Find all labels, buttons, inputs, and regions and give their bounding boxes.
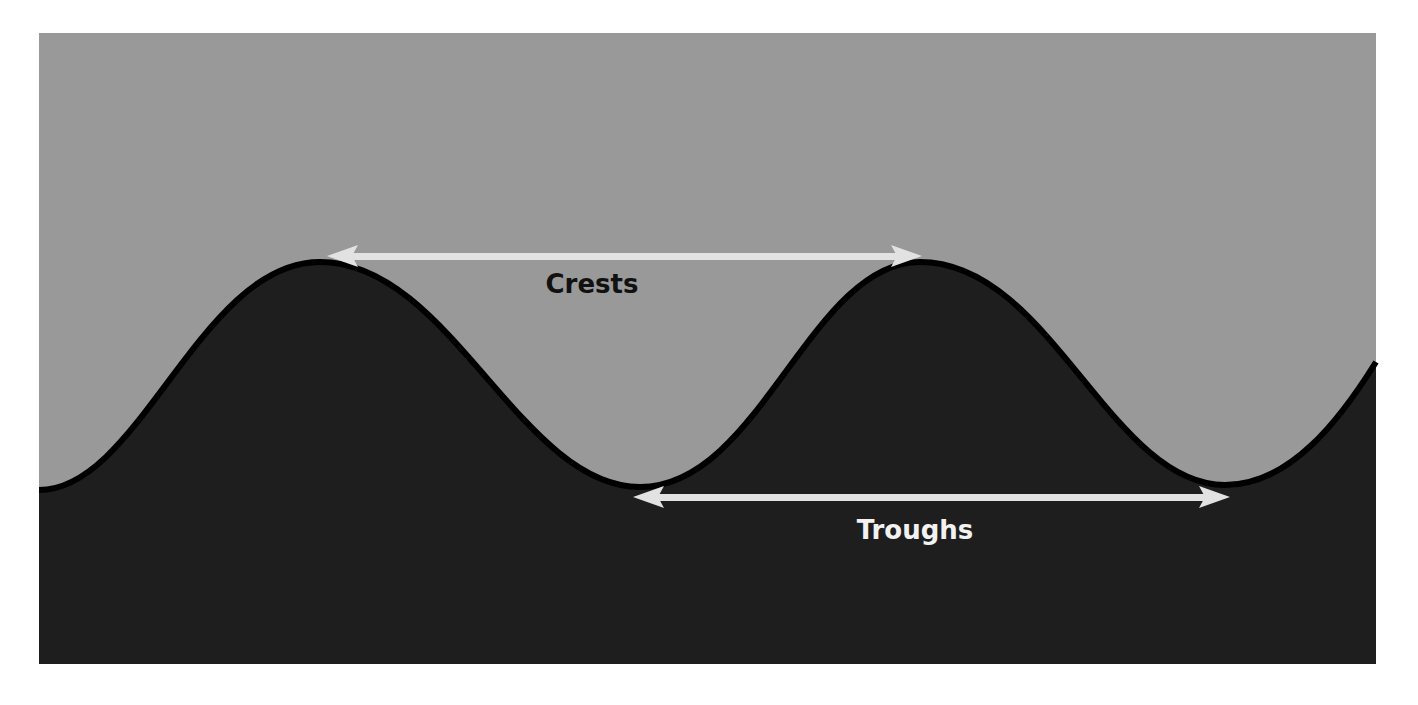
wave-diagram: Crests Troughs: [0, 0, 1418, 705]
troughs-label: Troughs: [857, 515, 974, 545]
crests-label: Crests: [546, 269, 639, 299]
